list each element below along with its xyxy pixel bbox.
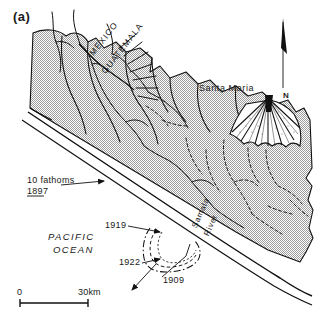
- scale-bar: [20, 299, 88, 307]
- north-arrow-label: N: [283, 92, 289, 100]
- leader-1909-arrow: [132, 264, 156, 290]
- figure-panel-a: (a) Santa Maria MEXICO GUATEMALA Samala …: [0, 0, 315, 321]
- lava-label-1919: 1919: [105, 221, 126, 230]
- scale-bar-min-label: 0: [17, 288, 22, 297]
- bathymetry-label-line1: 10 fathoms: [27, 176, 75, 185]
- lava-flow-outlines: [143, 228, 200, 272]
- panel-label: (a): [13, 10, 30, 23]
- scale-bar-max-label: 30km: [78, 288, 101, 297]
- leader-1909b: [186, 244, 190, 256]
- ocean-label-line2: OCEAN: [53, 245, 94, 255]
- lava-label-1922: 1922: [119, 258, 140, 267]
- map-drawing: [0, 0, 315, 321]
- ocean-label-line1: PACIFIC: [48, 232, 95, 242]
- lava-1909-outline: [158, 232, 196, 263]
- north-arrow: [281, 18, 287, 88]
- lava-1919-outline: [143, 228, 200, 272]
- volcano-label: Santa Maria: [199, 84, 254, 93]
- lava-label-1909: 1909: [163, 276, 184, 285]
- north-arrow-head: [281, 18, 287, 54]
- leader-1919: [128, 226, 160, 232]
- bathymetry-label-line2: 1897: [27, 187, 48, 196]
- leader-1909a: [162, 256, 186, 277]
- lava-1922-outline: [150, 230, 196, 267]
